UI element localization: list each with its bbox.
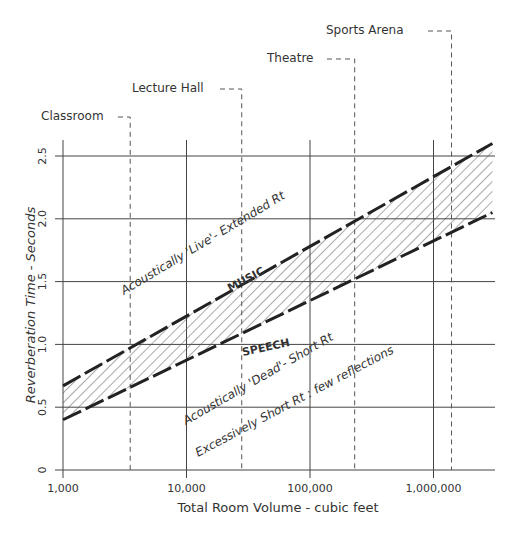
reverberation-chart: 00.51.01.52.02.51,00010,000100,0001,000,… [0,0,515,537]
y-tick-label: 0 [36,467,49,474]
x-tick-label: 100,000 [287,482,333,495]
ref-label-sports-arena: Sports Arena [326,23,404,37]
ref-label-classroom: Classroom [41,109,104,123]
y-tick-label: 2.5 [36,147,49,165]
ref-line-sports-arena [428,31,452,470]
x-tick-label: 1,000,000 [406,482,462,495]
speech-boundary-line [63,213,492,420]
x-tick-label: 1,000 [47,482,79,495]
ref-label-lecture-hall: Lecture Hall [132,81,204,95]
y-axis-label: Reverberation Time - Seconds [23,207,38,404]
x-axis-label: Total Room Volume - cubic feet [176,500,378,515]
x-tick-label: 10,000 [167,482,206,495]
ref-label-theatre: Theatre [266,51,313,65]
